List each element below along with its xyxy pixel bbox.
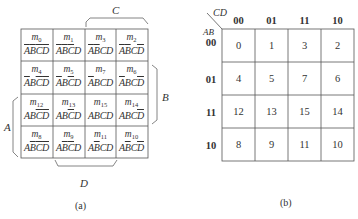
- minterm-label: m15: [85, 97, 116, 110]
- minterm-label: m2: [116, 32, 147, 45]
- minterm-cell: m5ABCD: [53, 61, 84, 93]
- minterm-cell: m1ABCD: [53, 29, 84, 61]
- minterm-label: m10: [116, 129, 147, 142]
- bracket-b: [152, 65, 157, 124]
- label-c: C: [112, 4, 119, 16]
- bracket-a: [13, 97, 18, 157]
- minterm-cell: m6ABCD: [116, 61, 147, 93]
- minterm-cell: m14ABCD: [116, 94, 147, 126]
- product-term: ABCD: [21, 77, 52, 88]
- minterm-cell: m3ABCD: [85, 29, 116, 61]
- row-header: 10: [203, 140, 219, 151]
- minterm-cell: m8ABCD: [21, 126, 52, 158]
- product-term: ABCD: [85, 77, 116, 88]
- product-term: ABCD: [53, 77, 84, 88]
- minterm-index-cell: 0: [222, 29, 255, 62]
- product-term: ABCD: [116, 77, 147, 88]
- product-term: ABCD: [53, 110, 84, 121]
- product-term: ABCD: [53, 142, 84, 153]
- minterm-label: m7: [85, 64, 116, 77]
- minterm-index-cell: 1: [255, 29, 288, 62]
- minterm-label: m13: [53, 97, 84, 110]
- minterm-index-cell: 2: [321, 29, 354, 62]
- label-d: D: [80, 177, 88, 189]
- caption-b: (b): [280, 197, 292, 208]
- minterm-index-cell: 15: [288, 95, 321, 128]
- product-term: ABCD: [53, 45, 84, 56]
- bracket-c: [86, 18, 148, 27]
- label-a: A: [4, 121, 11, 133]
- minterm-label: m12: [21, 97, 52, 110]
- minterm-cell: m12ABCD: [21, 94, 52, 126]
- minterm-label: m0: [21, 32, 52, 45]
- minterm-label: m1: [53, 32, 84, 45]
- column-header: 10: [321, 15, 354, 26]
- product-term: ABCD: [116, 142, 147, 153]
- minterm-index-cell: 3: [288, 29, 321, 62]
- minterm-label: m11: [85, 129, 116, 142]
- minterm-cell: m13ABCD: [53, 94, 84, 126]
- label-b: B: [162, 91, 169, 103]
- minterm-cell: m10ABCD: [116, 126, 147, 158]
- minterm-cell: m15ABCD: [85, 94, 116, 126]
- row-header: 11: [203, 107, 219, 118]
- minterm-cell: m7ABCD: [85, 61, 116, 93]
- column-header: 01: [255, 15, 288, 26]
- minterm-label: m6: [116, 64, 147, 77]
- minterm-index-cell: 10: [321, 128, 354, 161]
- product-term: ABCD: [116, 110, 147, 121]
- column-header: 11: [288, 15, 321, 26]
- minterm-label: m8: [21, 129, 52, 142]
- minterm-label: m4: [21, 64, 52, 77]
- minterm-index-cell: 14: [321, 95, 354, 128]
- bracket-d: [55, 160, 117, 166]
- row-header: 01: [203, 74, 219, 85]
- minterm-index-cell: 8: [222, 128, 255, 161]
- minterm-index-cell: 5: [255, 62, 288, 95]
- minterm-cell: m11ABCD: [85, 126, 116, 158]
- minterm-cell: m4ABCD: [21, 61, 52, 93]
- product-term: ABCD: [85, 110, 116, 121]
- minterm-index-cell: 6: [321, 62, 354, 95]
- product-term: ABCD: [85, 142, 116, 153]
- minterm-label: m5: [53, 64, 84, 77]
- product-term: ABCD: [21, 110, 52, 121]
- minterm-index-cell: 4: [222, 62, 255, 95]
- product-term: ABCD: [85, 45, 116, 56]
- minterm-cell: m2ABCD: [116, 29, 147, 61]
- minterm-index-cell: 7: [288, 62, 321, 95]
- corner-row-var: AB: [203, 27, 214, 37]
- minterm-label: m3: [85, 32, 116, 45]
- column-header: 00: [222, 15, 255, 26]
- minterm-cell: m9ABCD: [53, 126, 84, 158]
- product-term: ABCD: [21, 45, 52, 56]
- product-term: ABCD: [116, 45, 147, 56]
- minterm-index-cell: 11: [288, 128, 321, 161]
- minterm-index-cell: 9: [255, 128, 288, 161]
- minterm-label: m14: [116, 97, 147, 110]
- minterm-index-cell: 12: [222, 95, 255, 128]
- minterm-cell: m0ABCD: [21, 29, 52, 61]
- minterm-label: m9: [53, 129, 84, 142]
- minterm-index-cell: 13: [255, 95, 288, 128]
- product-term: ABCD: [21, 142, 52, 153]
- caption-a: (a): [75, 200, 86, 211]
- row-header: 00: [203, 37, 219, 48]
